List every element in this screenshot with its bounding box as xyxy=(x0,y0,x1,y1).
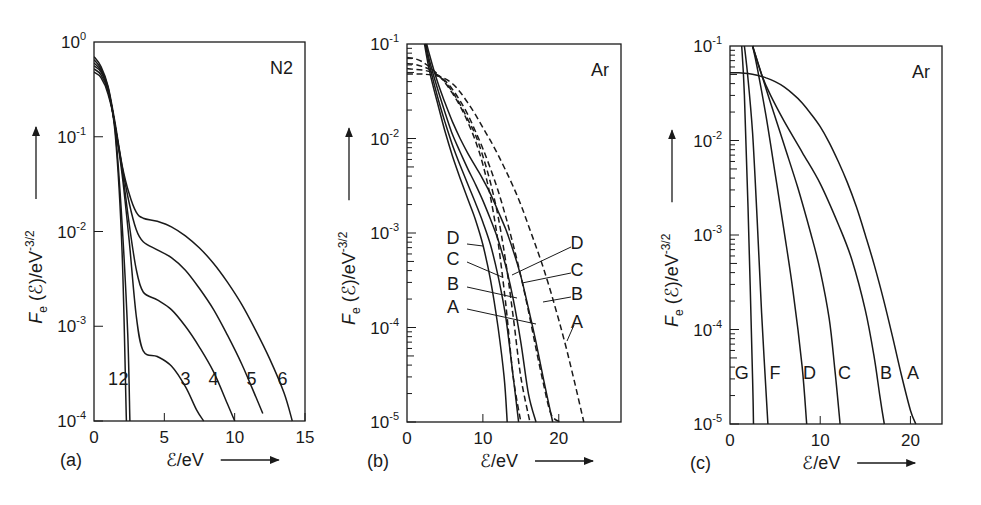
x-axis-label: ℰ/eV xyxy=(166,450,204,470)
annotation-leader-line xyxy=(522,273,571,283)
x-axis-label: ℰ/eV xyxy=(480,451,518,471)
y-tick-label: 10-4 xyxy=(57,409,86,431)
x-tick-label: 20 xyxy=(549,429,568,448)
curve-label-5: 5 xyxy=(247,369,257,389)
y-tick-label: 10-1 xyxy=(370,32,399,54)
y-tick-label: 10-2 xyxy=(57,220,86,242)
annotation-label-B: B xyxy=(571,284,583,304)
panel-c-ar-chart: 10-110-210-310-410-501020GFDCBAAr(c)ℰ/eV… xyxy=(659,34,942,473)
panel-title: Ar xyxy=(591,60,609,80)
annotation-label-D: D xyxy=(447,228,460,248)
y-tick-label: 100 xyxy=(61,30,86,52)
y-axis-label: Fe (ℰ)/eV-3/2 xyxy=(659,233,686,327)
curve-6 xyxy=(94,57,292,421)
x-tick-label: 15 xyxy=(296,428,315,447)
panel-a-n2-chart: 10010-110-210-310-4051015123456N2(a)ℰ/eV… xyxy=(23,30,314,470)
figure-three-panels: 10010-110-210-310-4051015123456N2(a)ℰ/eV… xyxy=(0,0,981,505)
panel-b-ar-chart: 10-110-210-310-410-501020DCBADCBAAr(b)ℰ/… xyxy=(336,32,621,471)
y-tick-label: 10-1 xyxy=(693,34,722,56)
y-tick-label: 10-5 xyxy=(370,410,399,432)
panel-label: (c) xyxy=(690,453,711,473)
curve-A-dashed xyxy=(407,74,584,422)
y-tick-label: 10-3 xyxy=(693,223,722,245)
curve-C xyxy=(753,46,841,424)
x-tick-label: 10 xyxy=(473,429,492,448)
curve-label-D: D xyxy=(803,363,816,383)
annotation-label-C: C xyxy=(447,249,460,269)
curve-4 xyxy=(94,63,235,421)
curve-label-1: 1 xyxy=(108,369,118,389)
panel-label: (b) xyxy=(367,451,389,471)
annotation-label-A: A xyxy=(447,297,459,317)
y-tick-label: 10-5 xyxy=(693,412,722,434)
curve-label-B: B xyxy=(880,363,892,383)
annotation-leader-line xyxy=(467,244,483,246)
annotation-leader-line xyxy=(467,309,536,324)
x-tick-label: 0 xyxy=(402,429,411,448)
curve-5 xyxy=(94,60,263,414)
curve-label-F: F xyxy=(770,363,781,383)
curve-label-4: 4 xyxy=(209,369,219,389)
panel-title: Ar xyxy=(912,62,930,82)
annotation-leader-line xyxy=(543,297,571,302)
y-tick-label: 10-4 xyxy=(693,318,722,340)
y-tick-label: 10-3 xyxy=(57,314,86,336)
y-axis-label: Fe (ℰ)/eV-3/2 xyxy=(336,231,363,325)
y-tick-label: 10-2 xyxy=(370,127,399,149)
svg-text:Fe (ℰ)/eV-3/2: Fe (ℰ)/eV-3/2 xyxy=(659,233,686,327)
curve-label-6: 6 xyxy=(277,369,287,389)
panel-title: N2 xyxy=(270,58,293,78)
y-tick-label: 10-1 xyxy=(57,125,86,147)
x-tick-label: 10 xyxy=(811,431,830,450)
curve-label-C: C xyxy=(838,363,851,383)
panel-label: (a) xyxy=(60,450,82,470)
x-tick-label: 10 xyxy=(225,428,244,447)
annotation-label-C: C xyxy=(571,260,584,280)
y-tick-label: 10-4 xyxy=(370,316,399,338)
annotation-leader-line xyxy=(512,247,571,275)
x-axis-label: ℰ/eV xyxy=(802,453,840,473)
annotation-label-A: A xyxy=(571,312,583,332)
curve-label-G: G xyxy=(735,363,749,383)
y-axis-label: Fe (ℰ)/eV-3/2 xyxy=(23,230,50,324)
curve-B xyxy=(426,44,536,422)
x-tick-label: 0 xyxy=(725,431,734,450)
svg-text:Fe (ℰ)/eV-3/2: Fe (ℰ)/eV-3/2 xyxy=(23,230,50,324)
x-tick-label: 0 xyxy=(89,428,98,447)
curve-C xyxy=(425,44,518,422)
x-tick-label: 20 xyxy=(901,431,920,450)
annotation-label-B: B xyxy=(447,274,459,294)
y-tick-label: 10-2 xyxy=(693,129,722,151)
svg-text:Fe (ℰ)/eV-3/2: Fe (ℰ)/eV-3/2 xyxy=(336,231,363,325)
curve-label-2: 2 xyxy=(119,369,129,389)
curve-label-3: 3 xyxy=(180,369,190,389)
curve-label-A: A xyxy=(907,363,919,383)
x-tick-label: 5 xyxy=(160,428,169,447)
annotation-label-D: D xyxy=(571,233,584,253)
y-tick-label: 10-3 xyxy=(370,221,399,243)
